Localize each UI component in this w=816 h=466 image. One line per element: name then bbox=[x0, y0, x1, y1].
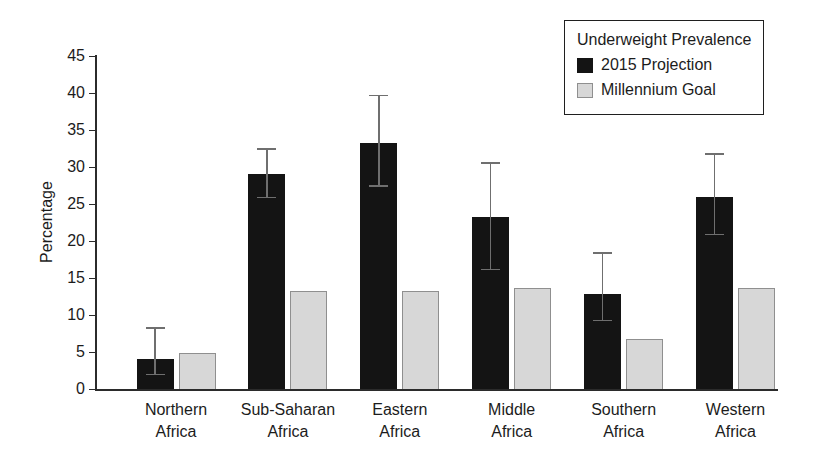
legend-title: Underweight Prevalence bbox=[577, 31, 751, 49]
error-cap-bottom-3 bbox=[481, 269, 500, 271]
error-cap-top-4 bbox=[593, 252, 612, 254]
bar-goal-5 bbox=[738, 288, 775, 389]
category-label-0: NorthernAfrica bbox=[116, 399, 236, 443]
y-tick-5 bbox=[89, 352, 95, 354]
y-tick-25 bbox=[89, 204, 95, 206]
error-cap-top-2 bbox=[369, 95, 388, 97]
category-label-5: WesternAfrica bbox=[676, 399, 796, 443]
error-cap-bottom-0 bbox=[146, 374, 165, 376]
legend-entry-goal: Millennium Goal bbox=[577, 81, 751, 99]
y-tick-label-25: 25 bbox=[47, 195, 85, 213]
legend-swatch-goal bbox=[577, 83, 593, 98]
error-cap-bottom-5 bbox=[705, 234, 724, 236]
y-tick-label-20: 20 bbox=[47, 232, 85, 250]
y-tick-30 bbox=[89, 167, 95, 169]
error-line-3 bbox=[490, 163, 492, 270]
y-tick-10 bbox=[89, 315, 95, 317]
y-tick-label-10: 10 bbox=[47, 306, 85, 324]
chart-root: Percentage 051015202530354045NorthernAfr… bbox=[0, 0, 816, 466]
legend-label-projection: 2015 Projection bbox=[601, 56, 712, 74]
y-tick-label-15: 15 bbox=[47, 269, 85, 287]
error-cap-bottom-4 bbox=[593, 320, 612, 322]
y-tick-label-5: 5 bbox=[47, 343, 85, 361]
category-label-3: MiddleAfrica bbox=[452, 399, 572, 443]
legend-entry-projection: 2015 Projection bbox=[577, 56, 751, 74]
y-tick-15 bbox=[89, 278, 95, 280]
y-tick-label-0: 0 bbox=[47, 380, 85, 398]
error-cap-top-5 bbox=[705, 153, 724, 155]
y-tick-label-45: 45 bbox=[47, 47, 85, 65]
bar-goal-3 bbox=[514, 288, 551, 389]
bar-goal-4 bbox=[626, 339, 663, 389]
bar-goal-2 bbox=[402, 291, 439, 389]
category-label-1: Sub-SaharanAfrica bbox=[228, 399, 348, 443]
legend-label-goal: Millennium Goal bbox=[601, 81, 716, 99]
y-tick-40 bbox=[89, 93, 95, 95]
y-axis-title: Percentage bbox=[37, 122, 57, 322]
category-label-4: SouthernAfrica bbox=[564, 399, 684, 443]
legend: Underweight Prevalence 2015 Projection M… bbox=[564, 20, 764, 115]
category-label-2: EasternAfrica bbox=[340, 399, 460, 443]
error-line-5 bbox=[714, 154, 716, 235]
error-cap-top-3 bbox=[481, 162, 500, 164]
bar-goal-1 bbox=[290, 291, 327, 389]
x-axis-line bbox=[95, 389, 778, 391]
y-axis-line bbox=[95, 55, 97, 391]
error-line-0 bbox=[154, 328, 156, 375]
y-tick-35 bbox=[89, 130, 95, 132]
legend-swatch-projection bbox=[577, 58, 593, 73]
bar-projection-1 bbox=[248, 174, 285, 389]
error-cap-bottom-1 bbox=[257, 197, 276, 199]
error-cap-bottom-2 bbox=[369, 185, 388, 187]
bar-goal-0 bbox=[179, 353, 216, 389]
y-tick-label-30: 30 bbox=[47, 158, 85, 176]
y-tick-label-35: 35 bbox=[47, 121, 85, 139]
y-tick-label-40: 40 bbox=[47, 84, 85, 102]
error-line-2 bbox=[378, 95, 380, 185]
error-cap-top-0 bbox=[146, 327, 165, 329]
y-tick-0 bbox=[89, 389, 95, 391]
error-cap-top-1 bbox=[257, 148, 276, 150]
y-tick-45 bbox=[89, 56, 95, 58]
y-tick-20 bbox=[89, 241, 95, 243]
error-line-4 bbox=[602, 253, 604, 320]
error-line-1 bbox=[266, 149, 268, 198]
